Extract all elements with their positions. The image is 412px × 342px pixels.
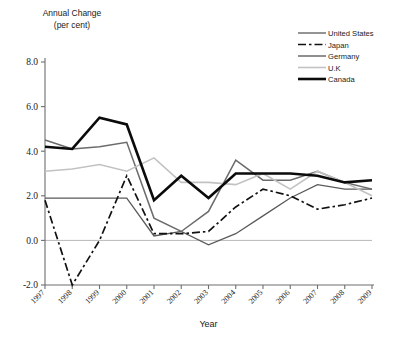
- x-axis-tick-label: 2009: [356, 288, 374, 306]
- x-axis-tick-label: 1997: [29, 288, 47, 306]
- legend-label-uk[interactable]: U.K: [328, 64, 341, 73]
- series-line-united_states: [45, 185, 372, 245]
- x-axis-title: Year: [199, 319, 217, 329]
- x-axis-tick-label: 2001: [138, 288, 156, 306]
- x-axis-tick-label: 2000: [110, 288, 128, 306]
- y-axis-tick-label: 8.0: [26, 57, 38, 67]
- x-axis-tick-label: 2002: [165, 288, 183, 306]
- x-axis-tick-label: 1998: [56, 288, 74, 306]
- x-axis-tick-label: 2007: [301, 288, 319, 306]
- x-axis-tick-label: 2006: [274, 288, 292, 306]
- x-axis-tick-label: 2008: [328, 288, 346, 306]
- x-axis-tick-label: 2004: [219, 288, 237, 306]
- chart-container: Annual Change(per cent)-2.00.02.04.06.08…: [0, 0, 412, 342]
- y-axis-tick-label: 0.0: [26, 236, 38, 246]
- line-chart: Annual Change(per cent)-2.00.02.04.06.08…: [0, 0, 412, 342]
- x-axis-tick-label: 2003: [192, 288, 210, 306]
- series-line-canada: [45, 118, 372, 201]
- series-line-japan: [45, 176, 372, 285]
- legend-label-germany[interactable]: Germany: [328, 52, 359, 61]
- y-axis-tick-label: 4.0: [26, 147, 38, 157]
- y-axis-tick-label: -2.0: [23, 280, 38, 290]
- legend-label-canada[interactable]: Canada: [328, 75, 355, 84]
- x-axis-tick-label: 1999: [83, 288, 101, 306]
- x-axis-tick-label: 2005: [247, 288, 265, 306]
- y-axis-tick-label: 6.0: [26, 102, 38, 112]
- chart-header-line1: Annual Change: [43, 8, 102, 18]
- y-axis-tick-label: 2.0: [26, 191, 38, 201]
- chart-header-line2: (per cent): [54, 20, 91, 30]
- legend-label-japan[interactable]: Japan: [328, 41, 349, 50]
- legend-label-united_states[interactable]: United States: [328, 29, 374, 38]
